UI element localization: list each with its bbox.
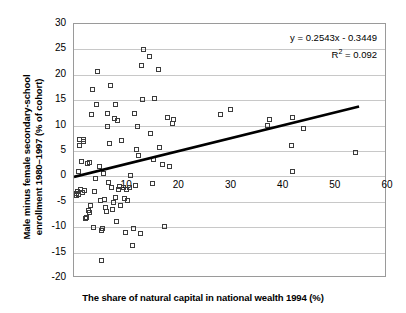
data-point-marker (102, 197, 107, 202)
data-point-marker (151, 157, 156, 162)
x-tick-label: 30 (216, 180, 246, 190)
data-point-marker (76, 169, 81, 174)
data-point-marker (84, 215, 89, 220)
data-point-marker (111, 200, 116, 205)
data-point-marker (139, 63, 144, 68)
x-tick-label: 50 (320, 180, 350, 190)
data-point-marker (147, 54, 152, 59)
gridline (74, 100, 385, 101)
x-tick-label: 60 (372, 180, 402, 190)
data-point-marker (162, 224, 167, 229)
data-point-marker (87, 160, 92, 165)
data-point-marker (89, 112, 94, 117)
y-tick-label: 10 (36, 120, 66, 130)
data-point-marker (81, 139, 86, 144)
data-point-marker (290, 115, 295, 120)
data-point-marker (290, 169, 295, 174)
y-tick-label: 5 (36, 145, 66, 155)
data-point-marker (353, 150, 358, 155)
data-point-marker (135, 124, 140, 129)
data-point-marker (91, 225, 96, 230)
data-point-marker (88, 203, 93, 208)
y-tick-label: -20 (36, 272, 66, 282)
data-point-marker (95, 69, 100, 74)
data-point-marker (228, 107, 233, 112)
r2-value: = 0.092 (342, 49, 377, 60)
data-point-marker (150, 181, 155, 186)
data-point-marker (79, 159, 84, 164)
x-tick-label: 20 (163, 180, 193, 190)
data-point-marker (138, 231, 143, 236)
data-point-marker (289, 143, 294, 148)
gridline (74, 176, 385, 177)
trendline-r2: R2 = 0.092 (332, 48, 377, 60)
data-point-marker (218, 112, 223, 117)
data-point-marker (265, 123, 270, 128)
data-point-marker (109, 185, 114, 190)
data-point-marker (167, 164, 172, 169)
gridline (74, 126, 385, 127)
data-point-marker (132, 111, 137, 116)
data-point-marker (108, 83, 113, 88)
data-point-marker (101, 171, 106, 176)
data-point-marker (113, 195, 118, 200)
data-point-marker (97, 164, 102, 169)
y-tick-label: 0 (36, 170, 66, 180)
data-point-marker (152, 96, 157, 101)
gridline (74, 227, 385, 228)
data-point-marker (105, 124, 110, 129)
y-tick-label: 25 (36, 43, 66, 53)
data-point-marker (93, 176, 98, 181)
y-tick-label: 20 (36, 69, 66, 79)
data-point-marker (104, 209, 109, 214)
data-point-marker (156, 67, 161, 72)
plot-area: 102030405060 y = 0.2543x - 0.3449 R2 = 0… (73, 23, 386, 277)
data-point-marker (82, 188, 87, 193)
y-tick-label: -5 (36, 196, 66, 206)
data-point-marker (267, 117, 272, 122)
data-point-marker (131, 226, 136, 231)
y-tick-label: 30 (36, 18, 66, 28)
data-point-marker (118, 203, 123, 208)
data-point-marker (100, 226, 105, 231)
x-axis-title: The share of natural capital in national… (0, 292, 406, 303)
data-point-marker (99, 258, 104, 263)
data-point-marker (105, 111, 110, 116)
y-tick-label: 15 (36, 94, 66, 104)
data-point-marker (125, 198, 130, 203)
data-point-marker (130, 243, 135, 248)
data-point-marker (119, 138, 124, 143)
data-point-marker (94, 102, 99, 107)
data-point-marker (128, 173, 133, 178)
data-point-marker (87, 210, 92, 215)
data-point-marker (107, 141, 112, 146)
data-point-marker (157, 145, 162, 150)
data-point-marker (113, 102, 118, 107)
y-tick-label: -10 (36, 221, 66, 231)
data-point-marker (127, 185, 132, 190)
data-point-marker (141, 47, 146, 52)
data-point-marker (301, 126, 306, 131)
data-point-marker (140, 97, 145, 102)
data-point-marker (148, 131, 153, 136)
data-point-marker (133, 183, 138, 188)
gridline (74, 253, 385, 254)
data-point-marker (92, 189, 97, 194)
gridline (74, 75, 385, 76)
gridline (74, 151, 385, 152)
data-point-marker (160, 162, 165, 167)
data-point-marker (90, 87, 95, 92)
y-tick-label: -15 (36, 247, 66, 257)
y-axis-title-line1: Male minus female secondary-school (21, 32, 33, 282)
trendline-equation: y = 0.2543x - 0.3449 (290, 32, 377, 43)
data-point-marker (136, 153, 141, 158)
x-tick-label: 40 (268, 180, 298, 190)
data-point-marker (77, 143, 82, 148)
trendline (74, 24, 385, 276)
data-point-marker (115, 118, 120, 123)
scatter-chart-figure: Male minus female secondary-school enrol… (0, 0, 406, 313)
data-point-marker (114, 219, 119, 224)
data-point-marker (110, 207, 115, 212)
data-point-marker (123, 230, 128, 235)
data-point-marker (171, 117, 176, 122)
